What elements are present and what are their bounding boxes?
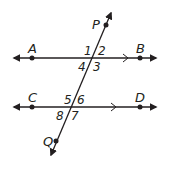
- angle-label-7: 7: [71, 109, 79, 123]
- angle-label-2: 2: [98, 44, 106, 58]
- angle-label-4: 4: [78, 60, 86, 74]
- angle-label-1: 1: [84, 44, 92, 58]
- transversal-pq: [51, 13, 111, 155]
- angle-label-8: 8: [56, 109, 64, 123]
- parallel-lines-diagram: A B C D P Q 1 2 4 3 5 6 8 7: [0, 0, 170, 170]
- point-p-dot: [104, 23, 109, 28]
- angle-label-6: 6: [77, 93, 85, 107]
- label-point-a: A: [27, 41, 37, 56]
- point-a-dot: [30, 56, 35, 61]
- label-point-d: D: [135, 90, 145, 105]
- point-b-dot: [138, 56, 143, 61]
- label-point-c: C: [28, 90, 38, 105]
- angle-label-3: 3: [93, 60, 101, 74]
- point-c-dot: [30, 105, 35, 110]
- label-point-p: P: [92, 17, 100, 32]
- point-d-dot: [138, 105, 143, 110]
- label-point-b: B: [136, 41, 145, 56]
- point-q-dot: [54, 139, 59, 144]
- angle-label-5: 5: [64, 93, 72, 107]
- label-point-q: Q: [43, 134, 53, 149]
